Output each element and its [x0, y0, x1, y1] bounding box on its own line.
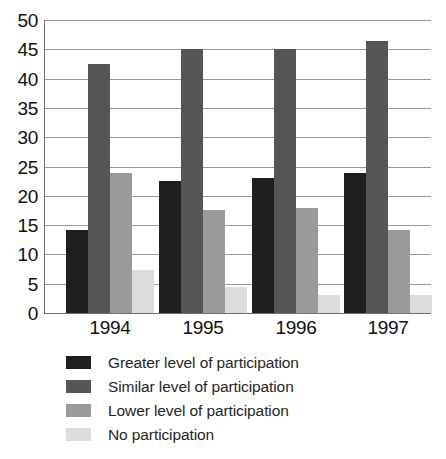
y-tick-label: 50: [0, 11, 38, 30]
bar: [88, 64, 110, 313]
bar: [181, 49, 203, 313]
bar: [66, 230, 88, 313]
y-tick-label: 25: [0, 157, 38, 176]
bar: [225, 287, 247, 313]
bars-layer: [44, 20, 431, 313]
y-tick-label: 15: [0, 216, 38, 235]
legend-item: Similar level of participation: [66, 374, 396, 398]
legend-swatch: [66, 404, 91, 417]
bar: [388, 230, 410, 313]
legend-swatch: [66, 428, 91, 441]
x-tick-label: 1997: [344, 317, 432, 339]
x-tick-label: 1996: [252, 317, 340, 339]
y-axis-tick-labels: 50454035302520151050: [0, 14, 38, 314]
bar: [252, 178, 274, 313]
bar: [410, 295, 432, 313]
x-axis-line: [44, 313, 431, 314]
y-tick-label: 20: [0, 186, 38, 205]
legend-swatch: [66, 356, 91, 369]
legend-item: Greater level of participation: [66, 350, 396, 374]
legend-label: Greater level of participation: [108, 354, 299, 371]
legend-item: Lower level of participation: [66, 398, 396, 422]
bar: [344, 173, 366, 313]
bar: [110, 173, 132, 313]
legend-label: No participation: [108, 426, 214, 443]
bar: [159, 181, 181, 313]
y-tick-label: 5: [0, 274, 38, 293]
x-tick-label: 1994: [66, 317, 154, 339]
legend-label: Similar level of participation: [108, 378, 294, 395]
x-tick-label: 1995: [159, 317, 247, 339]
bar: [203, 210, 225, 313]
legend-item: No participation: [66, 422, 396, 446]
bar: [296, 208, 318, 313]
bar: [132, 270, 154, 313]
y-tick-label: 0: [0, 304, 38, 323]
legend-swatch: [66, 380, 91, 393]
y-tick-label: 35: [0, 98, 38, 117]
y-tick-label: 45: [0, 40, 38, 59]
bar: [366, 41, 388, 313]
x-axis-tick-labels: 1994199519961997: [44, 317, 431, 343]
bar: [274, 49, 296, 313]
bar: [318, 295, 340, 313]
y-tick-label: 10: [0, 245, 38, 264]
plot-area: 50454035302520151050 1994199519961997: [0, 0, 446, 340]
grouped-bar-chart: 50454035302520151050 1994199519961997 Gr…: [0, 0, 446, 459]
chart-legend: Greater level of participationSimilar le…: [66, 350, 396, 446]
y-tick-label: 30: [0, 128, 38, 147]
y-tick-label: 40: [0, 69, 38, 88]
legend-label: Lower level of participation: [108, 402, 289, 419]
